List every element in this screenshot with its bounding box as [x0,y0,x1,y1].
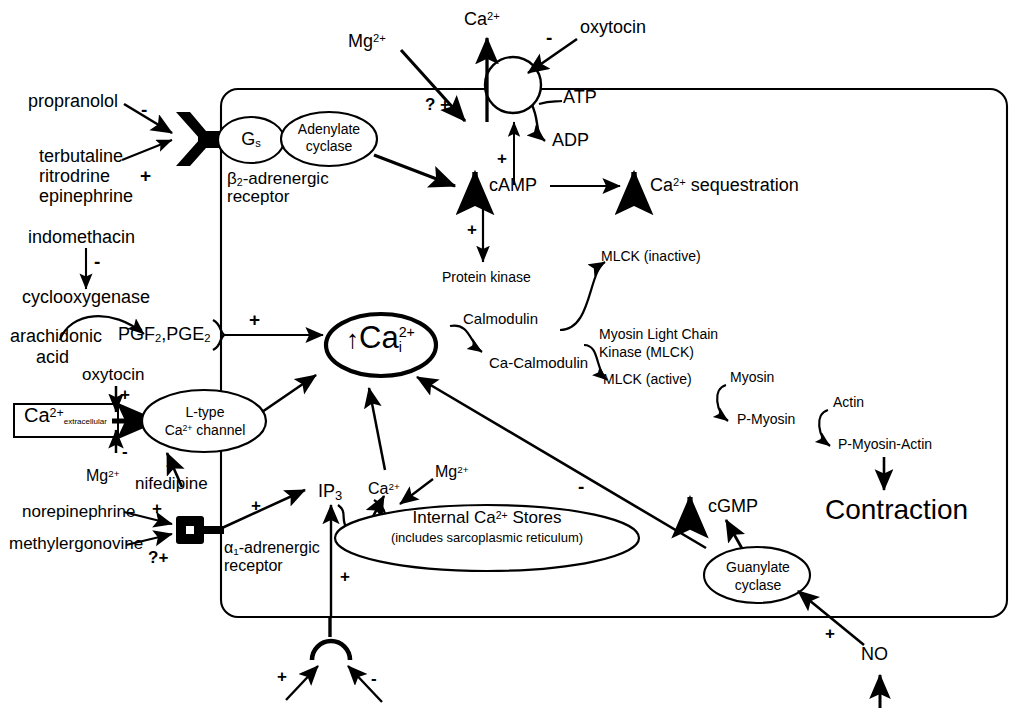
pk-to-mlck-inactive-curve [560,262,605,330]
adenylate-cyclase-label-line1: Adenylate [288,122,370,137]
seq-ca-text: Ca [650,175,673,195]
bottom-receptor-plus: + [277,668,287,685]
pge-text: ,PGE [161,324,204,344]
extracell-ca-charge: 2+ [50,406,64,420]
atp-substrate-curve [539,101,562,104]
guanylate-cyclase-line1: Guanylate [714,560,802,575]
stores-charge: 2+ [496,509,508,521]
bottom-membrane-receptor-glyph [312,617,350,660]
mlck-full-name-line1: Myosin Light Chain [599,327,718,342]
extracell-sub: extracellular [64,417,107,426]
alpha1-to-ip3-arrow [222,490,305,528]
ca-efflux-text: Ca [464,9,487,29]
adp-product-curve [532,105,545,141]
intracellular-calcium-label: ↑Ca 2+ i [346,322,415,355]
calmodulin-label: Calmodulin [463,311,538,327]
p-myosin-actin-label: P-Myosin-Actin [838,437,932,452]
ca-efflux-charge: 2+ [487,10,500,22]
mg-channel-label: Mg2+ [86,468,120,485]
arachidonic-acid-line1: arachidonic [10,327,102,346]
cgmp-inhibition-sign: - [578,477,584,496]
stores-text-b: Stores [508,508,562,527]
propranolol-label: propranolol [28,92,118,111]
p-myosin-label: P-Myosin [737,412,795,427]
calcium-atpase-pump [485,57,541,113]
methylergonovine-sign: ?+ [148,549,168,566]
myosin-label: Myosin [730,370,774,385]
propranolol-arrow [124,104,172,133]
mlck-active-label: MLCK (active) [603,372,692,387]
mg-channel-text: Mg [86,467,108,484]
mg-question-sign: ? + [425,96,450,114]
cgmp-label: cGMP [708,497,758,516]
norepinephrine-sign: + [152,500,162,517]
pg-calcium-sign: + [249,310,260,329]
terbutaline-label: terbutaline [39,147,123,166]
calmodulin-binding-curve [450,326,482,352]
prostaglandin-brace [213,320,224,350]
no-label: NO [861,645,888,664]
extracellular-calcium-label: Ca2+extracellular [24,405,107,426]
beta-receptor-suffix: -adrenergic [243,169,329,188]
ca-core-subscript: i [399,340,415,355]
contraction-label: Contraction [825,495,968,525]
arachidonic-acid-line2: acid [36,348,69,367]
mg-stores-charge: 2+ [457,464,468,475]
actin-label: Actin [833,395,864,410]
ip3-up-sign: + [340,568,350,585]
ca-core-charge: 2+ [399,325,415,340]
ltype-ca-text: Ca [165,422,183,438]
propranolol-sign: - [141,100,147,119]
gs-subscript: s [255,137,261,149]
calcium-efflux-label: Ca2+ [464,10,500,29]
ca-core-text: Ca [359,320,399,355]
indomethacin-sign: - [94,252,100,271]
oxytocin-pump-sign: - [546,28,552,47]
actin-binding-curve [819,410,830,446]
cyclase-to-camp-arrow [374,155,455,186]
seq-ca-charge: 2+ [673,176,686,188]
protein-kinase-label: Protein kinase [442,270,531,285]
beta-agonist-arrow [122,140,172,160]
adp-label: ADP [552,131,589,150]
cyclooxygenase-label: cyclooxygenase [22,288,150,307]
mlck-full-name-line2: Kinase (MLCK) [599,345,694,360]
channel-to-calcium-arrow [262,375,316,412]
pgf-text: PGF [118,324,155,344]
mlck-inactive-label: MLCK (inactive) [601,249,701,264]
l-type-calcium-channel-ellipse [142,390,266,452]
oxytocin-channel-sign: + [120,386,130,403]
oxytocin-inhibits-pump-arrow [528,39,577,73]
alpha-receptor-suffix: -adrenergic [239,539,320,556]
seq-suffix: sequestration [686,175,799,195]
stores-text-a: Internal Ca [412,508,495,527]
mg-stores-text: Mg [435,463,457,480]
camp-pump-sign: + [497,150,507,167]
beta2-receptor-label: β2-adrenergic [227,170,329,188]
oxytocin-pump-label: oxytocin [580,18,646,37]
internal-stores-line1: Internal Ca2+ Stores [377,509,597,527]
beta-agonist-sign: + [140,166,151,185]
mg-stores-label: Mg2+ [435,464,469,481]
epinephrine-label: epinephrine [39,187,133,206]
ltype-channel-word: channel [192,422,245,438]
bottom-receptor-activator-arrow [286,666,318,700]
ip3-label: IP3 [318,482,342,503]
atp-label: ATP [563,88,597,107]
beta2-receptor-glyph [176,112,224,166]
pge-sub: 2 [204,332,210,344]
gs-letter: G [241,129,255,149]
ca-calmodulin-label: Ca-Calmodulin [489,355,588,371]
ritrodrine-label: ritrodrine [39,167,110,186]
guanylate-cyclase-line2: cyclase [714,578,802,593]
indomethacin-label: indomethacin [28,228,135,247]
mg-charge: 2+ [373,32,386,44]
l-type-channel-line2: Ca2+ channel [160,423,250,438]
mg-channel-sign: - [122,443,128,460]
internal-stores-line2: (includes sarcoplasmic reticulum) [377,531,597,545]
alpha1-receptor-label: α1-adrenergic [224,540,320,558]
extracell-ca-text: Ca [24,404,50,426]
nifedipine-label: nifedipine [135,475,208,493]
l-type-channel-line1: L-type [160,405,250,420]
alpha1-receptor-label-line2: receptor [224,558,283,575]
